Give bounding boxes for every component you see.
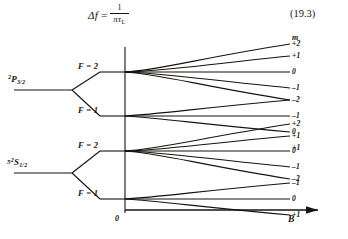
fraction-denominator: πτL	[110, 14, 128, 26]
equation-row: Δf = 1 πτL (19.3)	[0, 4, 348, 30]
m-value-2p-f2-3: –1	[292, 84, 300, 92]
equation-fraction: 1 πτL	[110, 4, 128, 26]
zeeman-line-2s-f2-m+2	[125, 124, 290, 151]
m-value-2s-f1-1: 0	[292, 195, 296, 203]
zeeman-line-2p-f1-m+1	[125, 116, 290, 132]
lower-f2-label: F = 2	[78, 141, 98, 150]
m-value-2s-f2-1: +1	[292, 132, 300, 140]
lower-state-term-symbol: 52S1/2	[7, 157, 27, 168]
b-axis-arrowhead	[306, 206, 318, 214]
m-value-2s-f2-2: 0	[292, 147, 296, 155]
upper-state-term-symbol: 2P3/2	[8, 74, 25, 85]
zeeman-line-2s-f2-m-2	[125, 151, 290, 179]
axis-origin-label: 0	[115, 215, 119, 223]
upper-f1-label: F = 1	[78, 106, 98, 115]
zeeman-line-2p-f2-m-2	[125, 72, 290, 100]
lower-f2-zeeman-fan	[125, 124, 290, 179]
m-value-2p-f2-0: +2	[292, 40, 300, 48]
m-value-2s-f1-0: –1	[292, 179, 300, 187]
denominator-subscript: L	[121, 18, 125, 25]
energy-level-diagram: 2P3/2 52S1/2 F = 2 F = 1 F = 2 F = 1 m +…	[0, 32, 348, 239]
m-value-2p-f2-2: 0	[292, 68, 296, 76]
upper-f2-label: F = 2	[78, 62, 98, 71]
m-value-2s-f2-3: –1	[292, 163, 300, 171]
zeeman-line-2p-f2-m+2	[125, 44, 290, 72]
upper-f2-zeeman-fan	[125, 44, 290, 100]
zeeman-line-2s-f1-m-1	[125, 183, 290, 199]
equation-expression: Δf = 1 πτL	[88, 4, 129, 26]
b-axis-label: B	[288, 215, 294, 225]
zeeman-line-2p-f1-m-1	[125, 100, 290, 116]
m-value-2p-f2-1: +1	[292, 52, 300, 60]
figure-page: Δf = 1 πτL (19.3)	[0, 0, 348, 239]
upper-f1-zeeman-fan	[125, 100, 290, 132]
equation-equals: =	[101, 9, 107, 21]
lower-term-subscript: 1/2	[19, 162, 27, 168]
upper-fork-to-f2	[72, 72, 100, 90]
m-value-2s-f2-0: +2	[292, 120, 300, 128]
lower-f1-label: F = 1	[78, 189, 98, 198]
upper-term-subscript: 3/2	[17, 79, 25, 85]
fraction-numerator: 1	[114, 4, 124, 13]
equation-number: (19.3)	[290, 8, 315, 19]
m-value-2p-f2-4: –2	[292, 96, 300, 104]
lower-fork-to-f2	[72, 151, 100, 173]
equation-lhs: Δf	[88, 9, 98, 21]
zeeman-line-2s-f1-m+1	[125, 199, 290, 215]
